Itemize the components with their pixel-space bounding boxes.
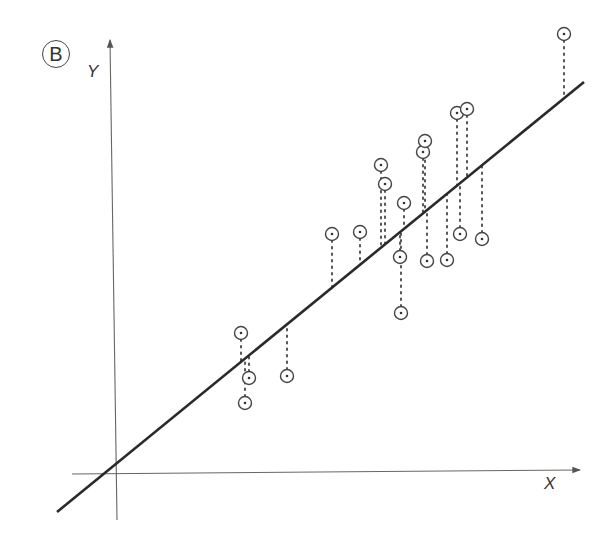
y-axis (110, 40, 117, 520)
data-points (235, 28, 571, 410)
residual-lines (241, 41, 564, 397)
data-point (394, 251, 407, 264)
data-point (419, 135, 432, 148)
data-point (461, 103, 474, 116)
data-point (454, 228, 467, 241)
data-point (235, 327, 248, 340)
data-point (326, 228, 339, 241)
panel-label-circle-b: B (42, 40, 70, 68)
data-point (281, 370, 294, 383)
data-point (243, 372, 256, 385)
data-point (441, 254, 454, 267)
data-point (398, 197, 411, 210)
y-axis-label: Y (87, 62, 98, 82)
data-point (421, 255, 434, 268)
regression-diagram (0, 0, 614, 559)
data-point (476, 233, 489, 246)
data-point (354, 226, 367, 239)
data-point (379, 178, 392, 191)
data-point (375, 159, 388, 172)
x-axis-label: X (544, 474, 555, 494)
data-point (395, 307, 408, 320)
data-point (558, 28, 571, 41)
x-axis (72, 470, 580, 474)
data-point (239, 397, 252, 410)
regression-line (57, 82, 584, 512)
